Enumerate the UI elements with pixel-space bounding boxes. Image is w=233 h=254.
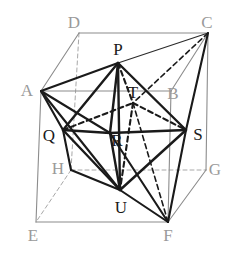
connector-edge-CP bbox=[118, 33, 208, 63]
octa-vertex-label-U: U bbox=[115, 199, 127, 216]
octa-vertex-label-P: P bbox=[113, 41, 122, 58]
octa-hidden-edge-TS bbox=[133, 103, 186, 130]
cube-vertex-label-C: C bbox=[201, 14, 212, 31]
octa-vertex-label-Q: Q bbox=[43, 127, 55, 144]
cube-vertex-label-A: A bbox=[21, 82, 33, 99]
octa-vertex-label-R: R bbox=[111, 132, 122, 149]
cube-edge-CG bbox=[206, 33, 208, 170]
cube-edge-DA bbox=[41, 33, 79, 91]
connector-edge-CS bbox=[186, 33, 208, 130]
octa-edge-PU bbox=[118, 63, 120, 190]
octa-edge-QR bbox=[63, 130, 110, 133]
cube-edge-BF bbox=[168, 91, 171, 222]
connector-hidden-edge-TF bbox=[133, 103, 168, 222]
cube-vertex-label-G: G bbox=[209, 161, 221, 178]
cube-edge-AE bbox=[36, 91, 41, 222]
cube-vertex-label-F: F bbox=[163, 227, 172, 244]
octa-edge-PR bbox=[110, 63, 118, 133]
cube-hidden-edge-HE bbox=[36, 170, 71, 222]
cube-vertex-label-D: D bbox=[68, 14, 80, 31]
cube-vertex-label-E: E bbox=[28, 227, 38, 244]
cube-hidden-edge-DH bbox=[71, 33, 79, 170]
octa-vertex-label-T: T bbox=[128, 84, 138, 101]
cube-vertex-label-B: B bbox=[167, 85, 178, 102]
cube-vertex-label-H: H bbox=[52, 160, 64, 177]
geometry-figure: ABCDEFGHPQRSTU bbox=[0, 0, 233, 254]
octa-vertex-label-S: S bbox=[193, 126, 202, 143]
